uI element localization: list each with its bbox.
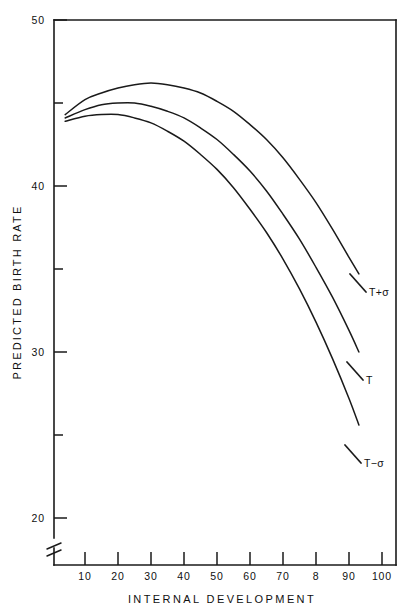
xtick-label-70: 70: [276, 570, 289, 582]
xtick-label-50: 50: [210, 570, 223, 582]
leader-line-lower: [345, 445, 361, 463]
xtick-label-80: 8: [313, 570, 320, 582]
x-axis-title: INTERNAL DEVELOPMENT: [128, 593, 316, 605]
xtick-label-30: 30: [144, 570, 157, 582]
curve-t: [65, 103, 359, 352]
curve-t-plus-sigma: [65, 83, 359, 274]
figure-container: 50 40 30 20 10 20 30 40 50 60 70 8 90 10…: [0, 0, 412, 609]
curve-label-t-plus-sigma: T+σ: [369, 286, 389, 298]
y-axis-title: PREDICTED BIRTH RATE: [11, 205, 23, 380]
curve-label-t: T: [366, 374, 373, 386]
xtick-label-10: 10: [78, 570, 91, 582]
chart-plot: 50 40 30 20 10 20 30 40 50 60 70 8 90 10…: [0, 0, 412, 609]
xtick-label-60: 60: [243, 570, 256, 582]
ytick-label-40: 40: [32, 180, 45, 192]
xtick-label-40: 40: [177, 570, 190, 582]
leader-line-middle: [347, 362, 363, 380]
curve-t-minus-sigma: [65, 114, 359, 425]
xtick-label-20: 20: [111, 570, 124, 582]
ytick-label-30: 30: [32, 346, 45, 358]
curve-label-t-minus-sigma: T−σ: [364, 457, 384, 469]
ytick-label-20: 20: [32, 512, 45, 524]
xtick-label-100: 100: [372, 570, 392, 582]
xtick-label-90: 90: [342, 570, 355, 582]
ytick-label-50: 50: [32, 14, 45, 26]
leader-line-upper: [350, 274, 366, 292]
